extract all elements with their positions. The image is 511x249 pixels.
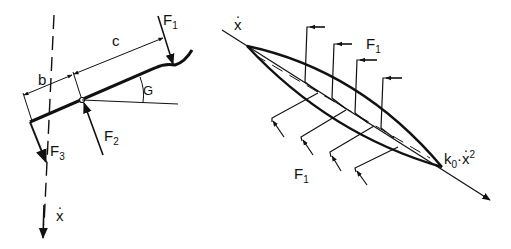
label-f1-top: F1 <box>366 36 381 55</box>
right-figure <box>222 27 490 200</box>
lever-bar <box>30 50 192 122</box>
diagram-svg <box>0 0 511 249</box>
label-b: b <box>38 72 46 87</box>
label-angle: G <box>143 84 153 97</box>
dimension-b <box>24 75 72 95</box>
dashed-axis-line <box>44 15 54 225</box>
f2-arrow <box>84 103 103 155</box>
velocity-arrow <box>43 205 44 238</box>
upper-force-arrows <box>305 27 402 138</box>
reference-line <box>82 100 178 104</box>
label-f2: F2 <box>104 128 119 147</box>
label-f1-left: F1 <box>163 12 178 31</box>
label-f1-bottom: F1 <box>294 166 309 185</box>
label-drag-term: k0·x2 <box>444 150 475 170</box>
b-extension-left <box>23 93 32 121</box>
label-velocity-left: x <box>56 208 64 223</box>
label-f3: F3 <box>50 143 65 162</box>
f3-arrow <box>30 122 46 162</box>
velocity-axis <box>222 30 490 200</box>
diagram-canvas: F1 c b G F2 F3 x x F1 F1 k0·x2 <box>0 0 511 249</box>
label-velocity-right: x <box>234 17 242 32</box>
label-c: c <box>112 33 120 48</box>
bc-extension-mid <box>73 72 82 100</box>
